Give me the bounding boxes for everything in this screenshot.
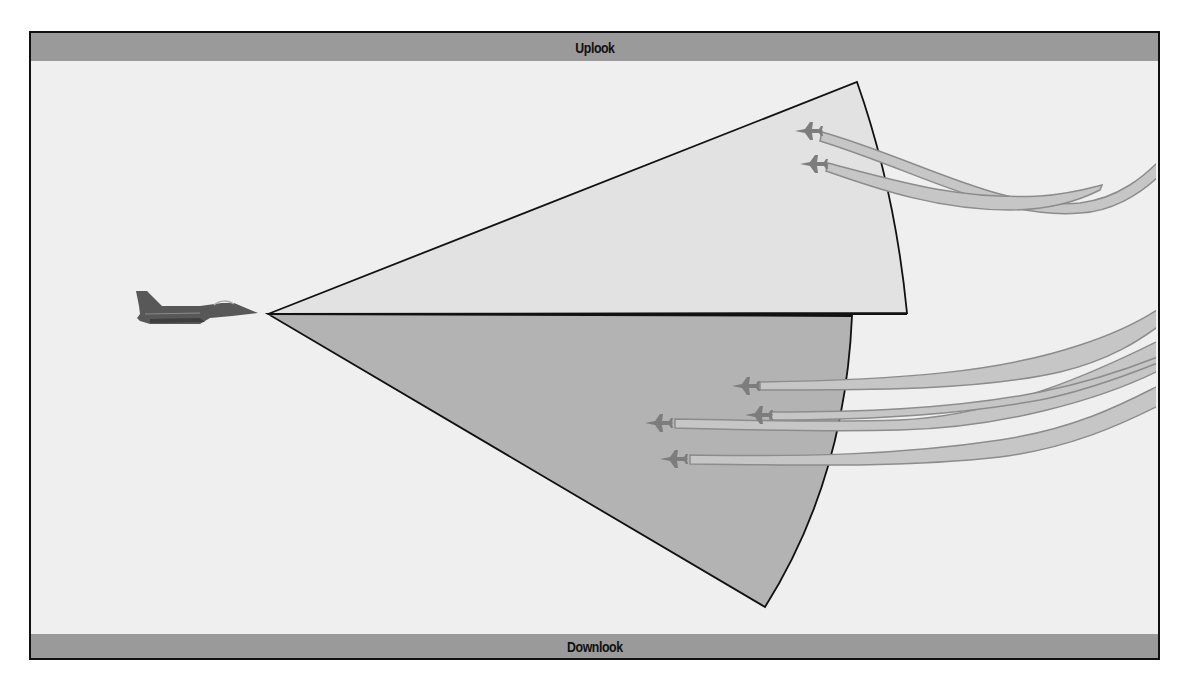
fighter-jet-icon bbox=[136, 291, 258, 324]
radar-scene bbox=[0, 0, 1179, 680]
uplook-radar-cone bbox=[268, 82, 907, 314]
